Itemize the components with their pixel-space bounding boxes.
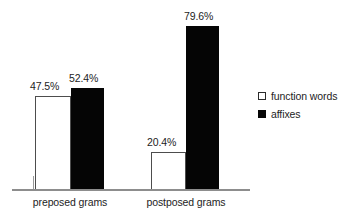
bar-chart: 47.5% 52.4% 20.4% 79.6% preposed grams p…: [0, 0, 352, 221]
filled-square-icon: [258, 110, 266, 118]
legend-label-function-words: function words: [271, 90, 337, 102]
bar-preposed-affixes: [71, 88, 104, 190]
category-label-preposed-grams: preposed grams: [24, 196, 116, 208]
bar-value-label-postposed-affixes: 79.6%: [184, 10, 213, 22]
bar-postposed-affixes: [186, 26, 219, 190]
category-label-postposed-grams: postposed grams: [137, 196, 235, 208]
horizontal-axis-line: [12, 189, 250, 191]
bar-value-label-preposed-function-words: 47.5%: [30, 80, 59, 92]
legend-label-affixes: affixes: [271, 108, 300, 120]
bar-value-label-preposed-affixes: 52.4%: [69, 72, 98, 84]
bar-value-label-postposed-function-words: 20.4%: [147, 136, 176, 148]
open-square-icon: [258, 92, 266, 100]
axis-tick: [33, 176, 34, 190]
bar-postposed-function-words: [151, 152, 186, 190]
bar-preposed-function-words: [35, 96, 71, 190]
chart-legend: function words affixes: [258, 88, 337, 124]
legend-item-affixes: affixes: [258, 106, 337, 121]
legend-item-function-words: function words: [258, 88, 337, 103]
